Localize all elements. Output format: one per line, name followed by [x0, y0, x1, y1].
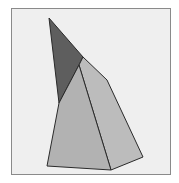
pyramid-diagram	[0, 0, 179, 183]
